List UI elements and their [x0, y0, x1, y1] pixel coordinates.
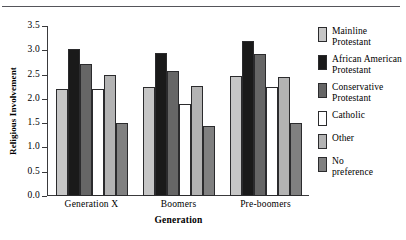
legend-swatch — [318, 157, 327, 172]
y-axis-tick-mark — [42, 50, 47, 51]
bar — [290, 123, 302, 196]
y-axis-tick-mark — [42, 147, 47, 148]
bar — [278, 77, 290, 196]
bar — [68, 49, 80, 196]
plot-area: 0.00.51.01.52.02.53.03.5 — [47, 26, 309, 196]
y-axis-tick-label: 3.0 — [28, 46, 40, 56]
legend-label: Other — [332, 133, 354, 144]
legend-label: No preference — [332, 156, 373, 177]
y-axis-tick-mark — [42, 196, 47, 197]
legend-item: Conservative Protestant — [318, 82, 404, 103]
y-axis-title-text: Religious Involvement — [8, 67, 18, 155]
bar — [56, 89, 68, 196]
legend-item: Mainline Protestant — [318, 26, 404, 47]
y-axis-tick-label: 3.5 — [28, 21, 40, 31]
header-rule — [2, 6, 400, 7]
y-axis-tick-mark — [42, 172, 47, 173]
bar — [242, 41, 254, 196]
bar — [104, 75, 116, 196]
bar-group — [48, 26, 135, 196]
legend-swatch — [318, 83, 327, 98]
bar — [266, 87, 278, 196]
x-axis-tick-label: Boomers — [135, 199, 222, 209]
legend-item: No preference — [318, 156, 404, 177]
bar — [167, 71, 179, 196]
legend-swatch — [318, 55, 327, 70]
bar — [92, 89, 104, 196]
bar — [191, 86, 203, 196]
y-axis-tick-label: 2.0 — [28, 94, 40, 104]
y-axis-tick-label: 2.5 — [28, 70, 40, 80]
y-axis-tick-mark — [42, 123, 47, 124]
bar-group — [135, 26, 222, 196]
chart-figure: Religious Involvement 0.00.51.01.52.02.5… — [0, 0, 406, 240]
bar — [116, 123, 128, 196]
x-axis-tick-labels: Generation XBoomersPre-boomers — [48, 199, 309, 209]
x-axis-tick-label: Generation X — [48, 199, 135, 209]
y-axis-tick-mark — [42, 99, 47, 100]
legend-item: African American Protestant — [318, 54, 404, 75]
bar — [254, 54, 266, 196]
bar — [230, 76, 242, 196]
bar-groups — [48, 26, 309, 196]
x-axis-tick-label: Pre-boomers — [222, 199, 309, 209]
bar-group — [222, 26, 309, 196]
y-axis-tick-label: 0.0 — [28, 191, 40, 201]
y-axis-tick-label: 1.5 — [28, 118, 40, 128]
bar — [155, 53, 167, 196]
legend-item: Catholic — [318, 110, 404, 126]
bar — [80, 64, 92, 196]
legend-swatch — [318, 111, 327, 126]
y-axis-title: Religious Involvement — [6, 26, 20, 196]
y-axis-tick-mark — [42, 75, 47, 76]
legend: Mainline ProtestantAfrican American Prot… — [318, 26, 404, 184]
y-axis-tick-label: 0.5 — [28, 167, 40, 177]
y-axis-tick-label: 1.0 — [28, 143, 40, 153]
legend-label: Conservative Protestant — [332, 82, 383, 103]
legend-label: African American Protestant — [332, 54, 402, 75]
x-axis-title: Generation — [48, 215, 309, 225]
legend-swatch — [318, 134, 327, 149]
legend-item: Other — [318, 133, 404, 149]
legend-label: Catholic — [332, 110, 365, 121]
legend-label: Mainline Protestant — [332, 26, 371, 47]
bar — [203, 126, 215, 196]
bar — [179, 104, 191, 196]
legend-swatch — [318, 27, 327, 42]
y-axis-tick-mark — [42, 26, 47, 27]
bar — [143, 87, 155, 196]
